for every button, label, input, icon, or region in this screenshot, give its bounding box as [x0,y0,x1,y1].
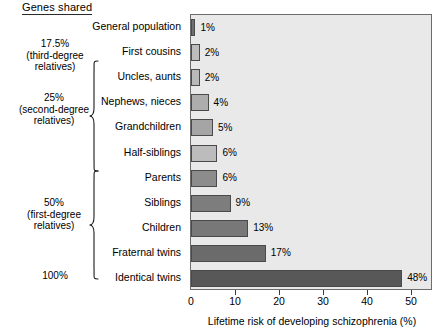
category-label: First cousins [122,46,181,57]
x-axis-tick-label: 30 [317,296,329,307]
bar-half-siblings[interactable] [191,145,217,162]
bar-siblings[interactable] [191,195,231,212]
x-axis-tick-label: 20 [273,296,285,307]
bar-first-cousins[interactable] [191,44,200,61]
bar-row: 1% [191,19,431,36]
category-label: General population [92,21,181,32]
bar-uncles-aunts[interactable] [191,69,200,86]
bar-row: 4% [191,94,431,111]
x-axis-tick-label: 40 [361,296,373,307]
bar-general-population[interactable] [191,19,195,36]
bar-row: 9% [191,195,431,212]
bar-row: 6% [191,145,431,162]
x-axis-tick-label: 10 [229,296,241,307]
bar-grandchildren[interactable] [191,119,213,136]
bar-row: 13% [191,220,431,237]
category-label: Siblings [144,197,181,208]
bar-identical-twins[interactable] [191,270,402,287]
bar-children[interactable] [191,220,248,237]
bar-value-label: 4% [214,98,228,108]
x-axis-tick-label: 0 [188,296,194,307]
category-label: Identical twins [115,272,181,283]
bar-row: 6% [191,170,431,187]
bar-parents[interactable] [191,170,217,187]
plot-area: 1%2%2%4%5%6%6%9%13%17%48% [190,14,432,290]
bar-rows: 1%2%2%4%5%6%6%9%13%17%48% [191,15,431,289]
bar-row: 5% [191,119,431,136]
category-label: Uncles, aunts [117,71,181,82]
bar-fraternal-twins[interactable] [191,245,266,262]
x-axis-title: Lifetime risk of developing schizophreni… [190,315,434,327]
bar-value-label: 17% [271,248,291,258]
category-label: Nephews, nieces [101,96,181,107]
category-label-column: General populationFirst cousinsUncles, a… [0,14,186,290]
x-axis-tick-label: 50 [405,296,417,307]
bar-nephews-nieces[interactable] [191,94,209,111]
bar-row: 48% [191,270,431,287]
bar-value-label: 2% [205,48,219,58]
bar-value-label: 9% [236,198,250,208]
bar-value-label: 5% [218,123,232,133]
bar-row: 2% [191,69,431,86]
category-label: Children [142,222,181,233]
bar-value-label: 1% [200,23,214,33]
bar-value-label: 6% [222,173,236,183]
category-label: Parents [145,172,181,183]
bar-value-label: 48% [407,273,427,283]
category-label: Grandchildren [115,121,181,132]
bar-value-label: 2% [205,73,219,83]
schizophrenia-risk-chart: Genes shared 17.5% (third-degree relativ… [0,0,434,332]
bar-value-label: 6% [222,148,236,158]
bar-row: 2% [191,44,431,61]
category-label: Fraternal twins [112,247,181,258]
bar-row: 17% [191,245,431,262]
bar-value-label: 13% [253,223,273,233]
category-label: Half-siblings [124,147,181,158]
genes-shared-heading: Genes shared [22,1,92,15]
